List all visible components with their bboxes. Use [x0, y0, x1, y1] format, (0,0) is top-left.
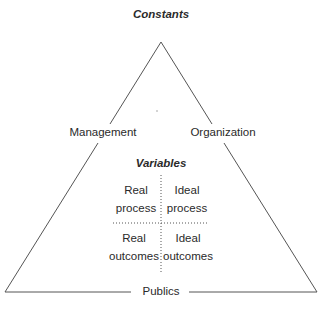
quadrant-real-process: Real process [116, 181, 156, 217]
quadrant-ideal-outcomes: Ideal outcomes [163, 229, 213, 265]
quadrant-ideal-process: Ideal process [167, 181, 207, 217]
right-edge-lower [224, 143, 317, 292]
left-edge-upper [110, 42, 161, 124]
publics-label: Publics [142, 285, 179, 298]
quadrant-line: Ideal [163, 229, 213, 247]
diagram-canvas: Constants Management Organization Variab… [0, 0, 336, 310]
left-edge-lower [5, 143, 98, 292]
management-label: Management [69, 126, 136, 139]
organization-label: Organization [190, 126, 255, 139]
speck-dot [156, 110, 157, 111]
quadrant-line: process [116, 199, 156, 217]
right-edge-upper [161, 42, 212, 124]
quadrant-line: Real [116, 181, 156, 199]
quadrant-line: outcomes [109, 247, 159, 265]
quadrant-line: Real [109, 229, 159, 247]
quadrant-real-outcomes: Real outcomes [109, 229, 159, 265]
variables-heading: Variables [136, 157, 187, 170]
constants-title: Constants [133, 8, 189, 21]
quadrant-line: Ideal [167, 181, 207, 199]
quadrant-line: outcomes [163, 247, 213, 265]
quadrant-line: process [167, 199, 207, 217]
